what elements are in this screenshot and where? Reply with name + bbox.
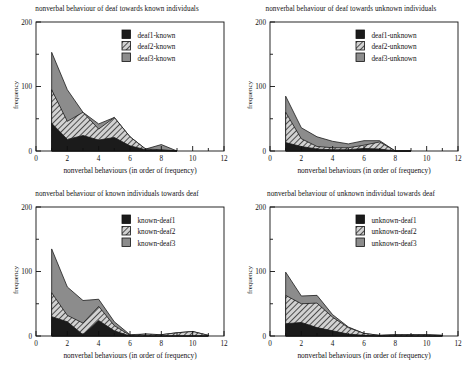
x-tick-label: 8 <box>160 340 164 348</box>
legend-swatch-2 <box>122 227 131 236</box>
x-tick-label: 8 <box>394 340 398 348</box>
x-tick-label: 10 <box>423 340 431 348</box>
x-tick-label: 2 <box>300 155 304 163</box>
x-tick-label: 6 <box>128 155 132 163</box>
x-tick-label: 10 <box>423 155 431 163</box>
y-tick-label: 0 <box>262 333 266 341</box>
plot-area: 0246810120100200deaf1-knowndeaf2-knownde… <box>0 0 234 185</box>
legend-label-2: deaf2-unknown <box>372 43 418 51</box>
legend-swatch-3 <box>356 238 365 247</box>
plot-area: 0246810120100200unknown-deaf1unknown-dea… <box>234 185 468 370</box>
legend-swatch-1 <box>356 215 365 224</box>
legend-label-2: known-deaf2 <box>138 228 176 236</box>
x-tick-label: 2 <box>66 155 70 163</box>
x-tick-label: 12 <box>454 340 462 348</box>
x-tick-label: 0 <box>268 340 272 348</box>
y-tick-label: 0 <box>28 333 32 341</box>
x-tick-label: 6 <box>362 155 366 163</box>
x-axis-label: nonverbal behaviours (in order of freque… <box>270 166 458 175</box>
legend-swatch-3 <box>122 238 131 247</box>
chart-title: nonverbal behaviour of deaf towards know… <box>0 5 234 14</box>
y-tick-label: 200 <box>255 204 266 212</box>
figure-container: nonverbal behaviour of deaf towards know… <box>0 0 468 370</box>
plot-area: 0246810120100200known-deaf1known-deaf2kn… <box>0 185 234 370</box>
x-tick-label: 4 <box>97 340 101 348</box>
y-tick-label: 0 <box>28 148 32 156</box>
x-tick-label: 12 <box>220 155 228 163</box>
x-tick-label: 2 <box>300 340 304 348</box>
legend-label-1: known-deaf1 <box>138 217 176 225</box>
x-axis-label: nonverbal behaviours (in order of freque… <box>36 351 224 360</box>
x-tick-label: 4 <box>97 155 101 163</box>
x-tick-label: 2 <box>66 340 70 348</box>
y-tick-label: 200 <box>255 19 266 27</box>
y-tick-label: 200 <box>21 19 32 27</box>
chart-panel-3: nonverbal behaviour of known individuals… <box>0 185 234 370</box>
y-tick-label: 100 <box>255 83 266 91</box>
y-axis-label: frequency <box>246 81 254 109</box>
x-tick-label: 8 <box>160 155 164 163</box>
y-axis-label: frequency <box>12 81 20 109</box>
legend-label-3: deaf3-unknown <box>372 55 418 63</box>
x-tick-label: 4 <box>331 155 335 163</box>
x-tick-label: 0 <box>268 155 272 163</box>
legend-swatch-2 <box>356 227 365 236</box>
legend-label-3: unknown-deaf3 <box>372 240 418 248</box>
x-axis-label: nonverbal behaviours (in order of freque… <box>36 166 224 175</box>
chart-title: nonverbal behaviour of known individuals… <box>0 190 234 199</box>
plot-area: 0246810120100200deaf1-unknowndeaf2-unkno… <box>234 0 468 185</box>
y-tick-label: 100 <box>255 268 266 276</box>
legend-label-3: known-deaf3 <box>138 240 176 248</box>
legend-swatch-3 <box>122 53 131 62</box>
legend-label-1: deaf1-unknown <box>372 32 418 40</box>
x-axis-label: nonverbal behaviours (in order of freque… <box>270 351 458 360</box>
x-tick-label: 6 <box>362 340 366 348</box>
legend-label-1: unknown-deaf1 <box>372 217 418 225</box>
y-tick-label: 100 <box>21 268 32 276</box>
legend-swatch-3 <box>356 53 365 62</box>
legend-label-1: deaf1-known <box>138 32 176 40</box>
chart-title: nonverbal behaviour of unknown individua… <box>234 190 468 199</box>
x-tick-label: 6 <box>128 340 132 348</box>
x-tick-label: 0 <box>34 155 38 163</box>
x-tick-label: 4 <box>331 340 335 348</box>
x-tick-label: 8 <box>394 155 398 163</box>
legend-swatch-1 <box>122 215 131 224</box>
x-tick-label: 10 <box>189 155 197 163</box>
chart-title: nonverbal behaviour of deaf towards unkn… <box>234 5 468 14</box>
chart-panel-2: nonverbal behaviour of deaf towards unkn… <box>234 0 468 185</box>
y-tick-label: 200 <box>21 204 32 212</box>
y-axis-label: frequency <box>12 266 20 294</box>
chart-panel-1: nonverbal behaviour of deaf towards know… <box>0 0 234 185</box>
y-tick-label: 0 <box>262 148 266 156</box>
chart-panel-4: nonverbal behaviour of unknown individua… <box>234 185 468 370</box>
y-axis-label: frequency <box>246 266 254 294</box>
legend-swatch-1 <box>356 30 365 39</box>
x-tick-label: 10 <box>189 340 197 348</box>
x-tick-label: 12 <box>454 155 462 163</box>
x-tick-label: 12 <box>220 340 228 348</box>
legend-label-2: deaf2-known <box>138 43 176 51</box>
legend-label-2: unknown-deaf2 <box>372 228 418 236</box>
legend-label-3: deaf3-known <box>138 55 176 63</box>
x-tick-label: 0 <box>34 340 38 348</box>
legend-swatch-2 <box>122 42 131 51</box>
y-tick-label: 100 <box>21 83 32 91</box>
legend-swatch-2 <box>356 42 365 51</box>
legend-swatch-1 <box>122 30 131 39</box>
